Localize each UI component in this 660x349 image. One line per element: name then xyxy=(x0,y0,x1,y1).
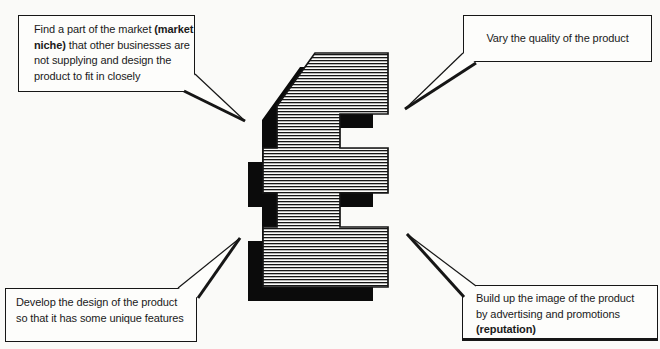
callout-text-line: Develop the design of the product xyxy=(16,295,196,311)
callout-text-bold: (market xyxy=(154,23,193,35)
callout-market-niche: Find a part of the market (market niche)… xyxy=(18,15,195,92)
callout-vary-quality: Vary the quality of the product xyxy=(463,15,652,62)
callout-text-line: Find a part of the market (market xyxy=(34,22,194,38)
pound-symbol-shadow xyxy=(248,67,373,301)
callout-text-line: niche) that other businesses are xyxy=(34,38,194,54)
callout-text-line: by advertising and promotions xyxy=(476,307,657,323)
callout-text-line: product to fit in closely xyxy=(34,69,194,85)
callout-text-line: so that it has some unique features xyxy=(16,311,196,327)
callout-text-line: Vary the quality of the product xyxy=(486,31,628,47)
marketing-pound-diagram: Find a part of the market (market niche)… xyxy=(0,0,660,349)
callout-unique-features: Develop the design of the product so tha… xyxy=(5,288,197,342)
callout-text-line: not supplying and design the xyxy=(34,53,194,69)
callout-text-line: Build up the image of the product xyxy=(476,291,657,307)
callout-text: that other businesses are xyxy=(66,39,190,51)
callout-text-line: (reputation) xyxy=(476,322,657,338)
callout-text: Find a part of the market xyxy=(34,23,154,35)
callout-text-bold: (reputation) xyxy=(476,323,536,335)
callout-advertising-reputation: Build up the image of the product by adv… xyxy=(462,285,658,341)
callout-text-bold: niche) xyxy=(34,39,66,51)
pound-symbol-body xyxy=(263,53,388,287)
